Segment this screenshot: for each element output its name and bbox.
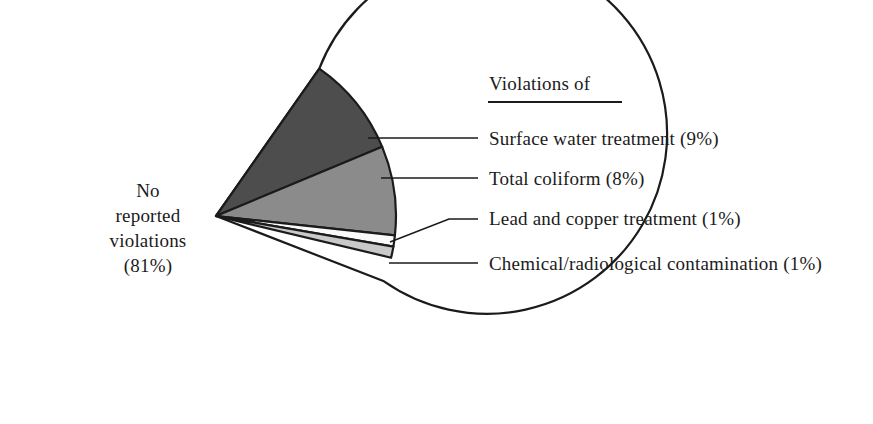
slice-label-line: (81%) [78, 253, 218, 278]
slice-label-no-reported-violations: No reported violations (81%) [78, 178, 218, 278]
callout-label-total-coliform: Total coliform (8%) [489, 167, 644, 191]
slice-label-line: No [78, 178, 218, 203]
callout-label-lead-and-copper-treatment: Lead and copper treatment (1%) [489, 207, 741, 231]
callout-label-chemical-radiological-contamination: Chemical/radiological contamination (1%) [489, 252, 822, 276]
legend-title: Violations of [489, 72, 590, 96]
pie-chart-figure: No reported violations (81%) Violations … [0, 0, 873, 424]
slice-label-line: reported [78, 203, 218, 228]
slice-label-line: violations [78, 228, 218, 253]
callout-label-surface-water-treatment: Surface water treatment (9%) [489, 127, 719, 151]
legend-title-underline [488, 101, 622, 103]
